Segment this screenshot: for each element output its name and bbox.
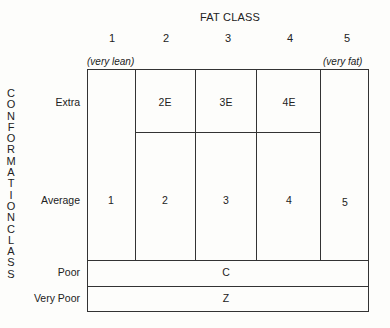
column-note-very-fat: (very fat) [323, 56, 362, 67]
row-label-average: Average [0, 194, 80, 206]
column-number-3: 3 [213, 32, 243, 44]
grid-poor-top-divider [87, 260, 369, 261]
grid-col-divider-4 [320, 69, 321, 261]
cell-2: 2 [145, 194, 185, 206]
cell-z: Z [206, 292, 246, 304]
grid-left-border [87, 69, 88, 311]
grid-top-border [87, 69, 369, 70]
grid-col-divider-1 [135, 69, 136, 260]
row-label-very-poor: Very Poor [0, 292, 80, 304]
cell-1: 1 [91, 194, 131, 206]
cell-2e: 2E [145, 96, 185, 108]
grid-very-poor-divider [87, 286, 369, 287]
grid-col-divider-2 [195, 69, 196, 260]
grid-bottom-border [87, 311, 369, 312]
cell-c: C [206, 266, 246, 278]
column-note-very-lean: (very lean) [87, 56, 134, 67]
cell-4e: 4E [269, 96, 309, 108]
conformation-class-vertical-title: C O N F O R M A T I O N C L A S S [4, 88, 18, 280]
grid-col-divider-3 [256, 69, 257, 261]
axis-letter: N [4, 212, 18, 223]
cell-5: 5 [325, 196, 365, 208]
fat-class-title: FAT CLASS [200, 11, 260, 23]
cell-4: 4 [269, 194, 309, 206]
cell-3: 3 [206, 194, 246, 206]
grid-right-border [368, 69, 369, 312]
row-label-poor: Poor [0, 266, 80, 278]
cell-3e: 3E [206, 96, 246, 108]
column-number-1: 1 [97, 32, 127, 44]
column-number-5: 5 [332, 32, 362, 44]
axis-letter: T [4, 178, 18, 189]
column-number-2: 2 [151, 32, 181, 44]
grid-extra-average-divider [135, 132, 321, 133]
column-number-4: 4 [275, 32, 305, 44]
row-label-extra: Extra [0, 96, 80, 108]
